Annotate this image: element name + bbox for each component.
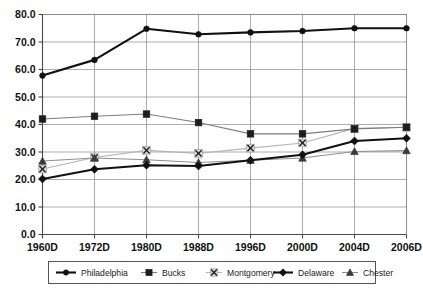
legend-item-label: Montgomery	[227, 268, 275, 278]
x-tick-label: 2000D	[287, 241, 318, 253]
legend-marker-swatch	[210, 269, 217, 276]
chart-legend: PhiladelphiaBucksMontgomeryDelawareChest…	[49, 262, 394, 284]
y-tick-label: 60.0	[15, 63, 36, 75]
y-tick-label: 70.0	[15, 36, 36, 48]
data-point-marker	[144, 26, 150, 32]
y-tick-label: 50.0	[15, 91, 36, 103]
x-tick-label: 1996D	[235, 241, 266, 253]
y-tick-label: 40.0	[15, 118, 36, 130]
x-tick-label: 2006D	[391, 241, 422, 253]
data-point-marker	[352, 25, 358, 31]
x-tick-label: 1980D	[131, 241, 162, 253]
data-point-marker	[351, 126, 358, 133]
legend-marker-swatch	[146, 269, 152, 275]
chart-canvas: 0.010.020.030.040.050.060.070.080.0 1960…	[0, 0, 423, 290]
legend-item-label: Chester	[363, 268, 393, 278]
data-point-marker	[92, 57, 98, 63]
data-point-marker	[195, 119, 202, 126]
data-point-marker	[143, 111, 150, 118]
data-point-marker	[299, 131, 306, 138]
data-point-marker	[143, 146, 151, 154]
data-point-marker	[404, 25, 410, 31]
data-point-marker	[39, 116, 46, 123]
data-point-marker	[300, 28, 306, 34]
legend-item-label: Delaware	[298, 268, 335, 278]
x-tick-label: 2004D	[339, 241, 370, 253]
y-tick-label: 0.0	[21, 228, 36, 240]
y-tick-label: 20.0	[15, 173, 36, 185]
x-tick-label: 1960D	[27, 241, 58, 253]
data-point-marker	[247, 131, 254, 138]
data-point-marker	[299, 139, 307, 147]
data-point-marker	[247, 144, 255, 152]
data-point-marker	[248, 30, 254, 36]
legend-item-label: Philadelphia	[81, 268, 128, 278]
y-tick-label: 10.0	[15, 201, 36, 213]
x-tick-label: 1988D	[183, 241, 214, 253]
data-point-marker	[195, 149, 203, 157]
data-point-marker	[40, 73, 46, 79]
x-tick-label: 1972D	[79, 241, 110, 253]
data-point-marker	[91, 113, 98, 120]
data-point-marker	[196, 31, 202, 37]
legend-marker-swatch	[63, 270, 68, 275]
line-chart: 0.010.020.030.040.050.060.070.080.0 1960…	[0, 0, 423, 290]
y-tick-label: 30.0	[15, 146, 36, 158]
legend-item-label: Bucks	[162, 268, 185, 278]
data-point-marker	[403, 124, 410, 131]
y-tick-label: 80.0	[15, 8, 36, 20]
data-point-marker	[39, 165, 47, 173]
legend-item-montgomery[interactable]: Montgomery	[206, 268, 275, 278]
